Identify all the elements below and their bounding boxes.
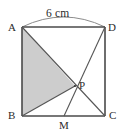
vertex-label-c: C — [109, 110, 116, 121]
vertex-label-d: D — [108, 22, 116, 33]
vertex-label-b: B — [8, 110, 15, 121]
shaded-triangle-abp — [22, 27, 75, 116]
vertex-label-m: M — [59, 120, 69, 131]
vertex-dot-p — [74, 85, 76, 87]
geometry-figure: 6 cm A D B C P M — [0, 0, 126, 136]
dimension-label-6cm: 6 cm — [46, 8, 69, 20]
vertex-label-p: P — [79, 80, 85, 91]
vertex-label-a: A — [8, 22, 16, 33]
cevian-dm — [64, 27, 105, 116]
